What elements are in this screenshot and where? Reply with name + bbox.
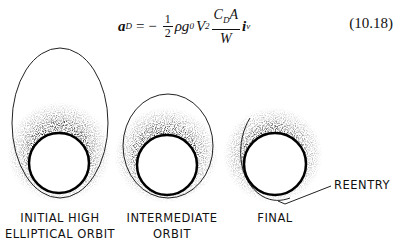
earth-circle — [244, 133, 306, 195]
panel-intermediate-orbit — [114, 94, 218, 203]
label-line1: INTERMEDIATE — [122, 210, 222, 226]
panel-label-final: FINAL — [245, 210, 305, 226]
panel-label-intermediate: INTERMEDIATE ORBIT — [122, 210, 222, 242]
label-line1: INITIAL HIGH — [0, 210, 120, 226]
label-line2: ORBIT — [122, 226, 222, 242]
reentry-label: REENTRY — [334, 178, 390, 192]
label-line1: FINAL — [245, 210, 305, 226]
earth-circle — [137, 135, 197, 195]
earth-circle — [29, 133, 89, 193]
panel-label-initial: INITIAL HIGH ELLIPTICAL ORBIT — [0, 210, 120, 242]
label-line2: ELLIPTICAL ORBIT — [0, 226, 120, 242]
panel-final-orbit — [223, 107, 331, 204]
panel-initial-orbit — [7, 48, 111, 202]
reentry-callout: REENTRY — [334, 177, 390, 193]
